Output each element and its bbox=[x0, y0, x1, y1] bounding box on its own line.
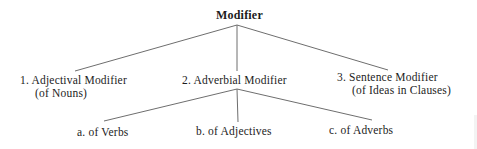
node-number: 1. bbox=[20, 74, 29, 86]
node-label: Sentence Modifier bbox=[349, 71, 438, 83]
node-sublabel: (of Ideas in Clauses) bbox=[337, 84, 451, 97]
node-sentence-modifier: 3. Sentence Modifier (of Ideas in Clause… bbox=[337, 71, 451, 97]
node-sublabel: (of Nouns) bbox=[20, 87, 127, 100]
node-adjectival-modifier: 1. Adjectival Modifier (of Nouns) bbox=[20, 74, 127, 100]
node-letter: a. bbox=[77, 126, 85, 138]
root-node-modifier: Modifier bbox=[216, 9, 263, 22]
node-label: Adverbial Modifier bbox=[193, 74, 286, 86]
root-label: Modifier bbox=[216, 8, 263, 22]
node-adverbial-modifier: 2. Adverbial Modifier bbox=[182, 74, 287, 87]
modifier-tree-diagram: Modifier 1. Adjectival Modifier (of Noun… bbox=[0, 0, 477, 149]
node-of-adverbs: c. of Adverbs bbox=[329, 124, 393, 137]
node-label: of Verbs bbox=[88, 126, 128, 138]
edge-root-to-sentence bbox=[237, 25, 388, 70]
node-letter: b. bbox=[196, 125, 205, 137]
node-label: Adjectival Modifier bbox=[31, 74, 126, 86]
edge-root-to-adjectival bbox=[75, 25, 237, 71]
edge-adverbial-to-adjectives bbox=[237, 89, 238, 122]
node-number: 2. bbox=[182, 74, 191, 86]
node-of-adjectives: b. of Adjectives bbox=[196, 125, 272, 138]
node-letter: c. bbox=[329, 124, 337, 136]
node-label: of Adverbs bbox=[340, 124, 393, 136]
node-of-verbs: a. of Verbs bbox=[77, 126, 129, 139]
node-number: 3. bbox=[337, 71, 346, 83]
node-label: of Adjectives bbox=[208, 125, 272, 137]
